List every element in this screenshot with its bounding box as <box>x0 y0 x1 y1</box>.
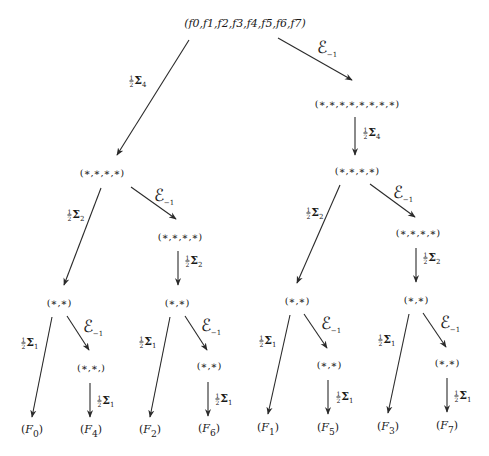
edge-n4r-to-n2c <box>297 185 340 283</box>
node-n2-a: (∗,∗) <box>47 297 72 308</box>
node-n2-d: (∗,∗) <box>404 294 429 305</box>
leaf-F5: (F5) <box>317 421 339 436</box>
label-half-sigma1-F6: 12Σ1 <box>215 392 232 407</box>
edge-n2c-to-F1 <box>268 315 290 414</box>
label-half-sigma1-F3: 12Σ1 <box>378 333 395 348</box>
label-eps-root: ℰ−1 <box>317 37 337 59</box>
decomposition-tree-diagram: (f0,f1,f2,f3,f4,f5,f6,f7) (∗,∗,∗,∗,∗,∗,∗… <box>0 0 489 456</box>
leaf-sub: 7 <box>448 424 454 435</box>
leaf-base: F <box>261 421 269 434</box>
leaf-base: F <box>381 420 389 433</box>
edge-root-to-left <box>117 40 189 155</box>
node-n2-c-e: (∗,∗) <box>317 359 342 370</box>
leaf-sub: 4 <box>92 428 98 439</box>
label-eps-n4-right: ℰ−1 <box>393 182 413 204</box>
leaf-F2: (F2) <box>139 423 161 438</box>
label-eps-n2-c: ℰ−1 <box>321 313 341 335</box>
node-n4-left-e: (∗,∗,∗,∗) <box>158 231 203 242</box>
leaf-sub: 2 <box>151 428 157 439</box>
node-n2-d-e: (∗,∗) <box>435 357 460 368</box>
edge-n4l-to-n2a <box>64 188 101 285</box>
leaf-F4: (F4) <box>80 423 102 438</box>
leaf-sub: 3 <box>389 425 395 436</box>
label-half-sigma1-F2: 12Σ1 <box>139 335 156 350</box>
root-node: (f0,f1,f2,f3,f4,f5,f6,f7) <box>184 17 306 30</box>
leaf-sub: 0 <box>33 428 39 439</box>
label-eps-n2-d: ℰ−1 <box>440 312 460 334</box>
label-half-sigma1-F5: 12Σ1 <box>336 390 353 405</box>
leaf-F0: (F0) <box>21 423 43 438</box>
leaf-F7: (F7) <box>436 419 458 434</box>
label-eps-n4-left: ℰ−1 <box>154 185 174 207</box>
label-eps-n2-a: ℰ−1 <box>83 316 103 338</box>
leaf-base: F <box>202 422 210 435</box>
leaf-F6: (F6) <box>198 422 220 437</box>
leaf-F1: (F1) <box>257 421 279 436</box>
node-n2-b: (∗,∗) <box>165 297 190 308</box>
node-n2-a-e: (∗,∗,) <box>77 362 105 373</box>
leaf-sub: 6 <box>210 427 216 438</box>
edge-root-to-n8 <box>278 38 352 80</box>
leaf-sub: 5 <box>329 426 335 437</box>
label-half-sigma2-c: 12Σ2 <box>306 206 323 221</box>
leaf-base: F <box>25 423 33 436</box>
leaf-base: F <box>440 419 448 432</box>
node-n4-right: (∗,∗,∗,∗) <box>335 165 380 176</box>
leaf-base: F <box>321 421 329 434</box>
node-n4-left: (∗,∗,∗,∗) <box>80 167 125 178</box>
node-n8: (∗,∗,∗,∗,∗,∗,∗,∗) <box>315 98 399 109</box>
leaf-sub: 1 <box>269 426 275 437</box>
label-half-sigma2-b: 12Σ2 <box>185 254 202 269</box>
node-n2-b-e: (∗,∗) <box>197 360 222 371</box>
leaf-base: F <box>143 423 151 436</box>
node-n2-c: (∗,∗) <box>285 295 310 306</box>
label-half-sigma4-right: 12Σ4 <box>363 126 380 141</box>
leaf-base: F <box>84 423 92 436</box>
label-half-sigma2-d: 12Σ2 <box>423 251 440 266</box>
label-half-sigma1-F1: 12Σ1 <box>259 334 276 349</box>
edge-n2d-to-F3 <box>388 314 409 413</box>
node-n4-right-e: (∗,∗,∗,∗) <box>396 227 441 238</box>
label-eps-n2-b: ℰ−1 <box>201 315 221 337</box>
edge-n2b-to-F2 <box>150 317 170 417</box>
leaf-F3: (F3) <box>377 420 399 435</box>
label-half-sigma2-a: 12Σ2 <box>67 208 84 223</box>
label-half-sigma1-F4: 12Σ1 <box>97 394 114 409</box>
label-half-sigma1-F7: 12Σ1 <box>454 389 471 404</box>
label-half-sigma1-F0: 12Σ1 <box>21 336 38 351</box>
label-half-sigma4-left: 12Σ4 <box>129 74 146 89</box>
edge-n2a-to-F0 <box>32 317 52 417</box>
